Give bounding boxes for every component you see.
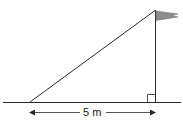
flag-icon — [156, 11, 178, 21]
right-angle-marker — [148, 95, 156, 103]
base-length-label: 5 m — [81, 106, 103, 118]
hypotenuse-line — [30, 11, 155, 103]
